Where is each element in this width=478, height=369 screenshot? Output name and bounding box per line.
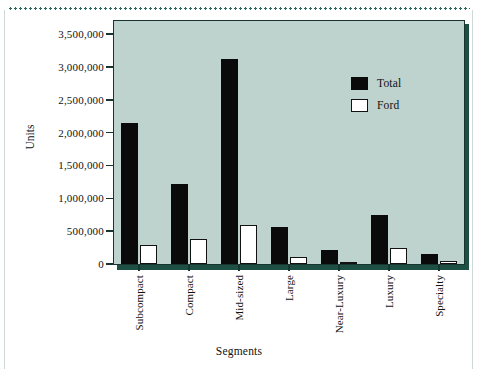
bar-total <box>321 250 338 264</box>
y-axis-tick-label: 3,500,000 <box>58 28 104 40</box>
x-axis-label-near-luxury: Near-Luxury <box>339 217 351 275</box>
y-axis-tick <box>106 99 114 101</box>
legend-item-total: Total <box>351 74 401 92</box>
legend-label-total: Total <box>377 77 401 89</box>
legend-swatch-total-icon <box>351 77 368 90</box>
y-axis-tick-label: 1,500,000 <box>58 159 104 171</box>
x-axis-label-text: Large <box>283 275 295 301</box>
bar-total <box>271 227 288 264</box>
x-axis-label-text: Specialty <box>433 275 445 317</box>
x-axis-label-text: Mid-sized <box>233 275 245 321</box>
y-axis-tick <box>106 263 114 265</box>
figure: 0500,0001,000,0001,500,0002,000,0002,500… <box>0 0 478 369</box>
y-axis-tick <box>106 198 114 200</box>
x-axis-label-text: Near-Luxury <box>333 275 345 333</box>
bar-total <box>371 215 388 264</box>
bar-group <box>171 21 207 264</box>
y-axis-tick <box>106 230 114 232</box>
x-axis-label-large: Large <box>289 249 301 275</box>
y-axis-tick <box>106 132 114 134</box>
x-axis-label-text: Compact <box>183 275 195 315</box>
page-left-rule <box>4 10 5 369</box>
legend-item-ford: Ford <box>351 96 401 114</box>
bar-group <box>271 21 307 264</box>
bar-total <box>221 59 238 264</box>
y-axis-tick <box>106 165 114 167</box>
y-axis-tick-label: 2,000,000 <box>58 127 104 139</box>
x-axis-label-text: Luxury <box>383 275 395 308</box>
legend-label-ford: Ford <box>377 99 400 111</box>
y-axis-tick <box>106 33 114 35</box>
bar-total <box>121 123 138 264</box>
plot-area: 0500,0001,000,0001,500,0002,000,0002,500… <box>113 20 465 265</box>
bar-total <box>421 254 438 264</box>
x-axis-label-compact: Compact <box>189 235 201 275</box>
bar-group <box>421 21 457 264</box>
y-axis-tick-label: 500,000 <box>67 225 104 237</box>
x-axis-label-subcompact: Subcompact <box>139 220 151 275</box>
x-axis-label-text: Subcompact <box>133 275 145 330</box>
x-axis-label-specialty: Specialty <box>439 233 451 275</box>
bar-group <box>371 21 407 264</box>
x-axis-title: Segments <box>0 345 478 357</box>
y-axis-title: Units <box>24 125 36 150</box>
y-axis-tick-label: 3,000,000 <box>58 61 104 73</box>
y-axis-tick-label: 1,000,000 <box>58 192 104 204</box>
y-axis-tick <box>106 66 114 68</box>
y-axis-tick-label: 0 <box>98 258 104 270</box>
legend-swatch-ford-icon <box>351 99 368 112</box>
legend: Total Ford <box>351 74 401 118</box>
bar-group <box>221 21 257 264</box>
x-axis-label-mid-sized: Mid-sized <box>239 229 251 275</box>
bar-total <box>171 184 188 264</box>
y-axis-tick-label: 2,500,000 <box>58 94 104 106</box>
page-top-dotted-rule <box>8 7 470 10</box>
x-axis-label-luxury: Luxury <box>389 242 401 275</box>
page-right-rule <box>472 10 473 369</box>
